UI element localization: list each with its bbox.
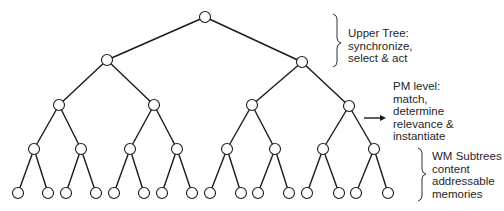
wm-subtrees-label: WM Subtrees content addressable memories [432, 150, 502, 200]
tree-node-level-3 [222, 144, 233, 155]
tree-node-level-3 [270, 144, 281, 155]
tree-node-level-2 [149, 100, 160, 111]
tree-edge [66, 149, 81, 193]
tree-node-level-4 [139, 188, 150, 199]
pm-level-arrow-icon [364, 115, 386, 121]
tree-edge [323, 106, 349, 149]
upper-tree-line-3: select & act [348, 52, 413, 65]
tree-edge [130, 149, 144, 193]
upper-tree-line-1: Upper Tree: [348, 27, 413, 40]
tree-root-node [200, 12, 211, 23]
tree-node-level-3 [369, 144, 380, 155]
upper-tree-label: Upper Tree: synchronize, select & act [348, 27, 413, 65]
tree-edge [130, 105, 154, 149]
wm-subtrees-line-4: memories [432, 188, 502, 201]
tree-edge [227, 105, 252, 149]
tree-edge [114, 149, 130, 193]
tree-node-level-1 [297, 57, 308, 68]
tree-edge [162, 149, 177, 193]
tree-edges [18, 17, 388, 193]
tree-edge [205, 17, 302, 62]
tree-node-level-3 [172, 144, 183, 155]
wm-subtrees-line-1: WM Subtrees [432, 150, 502, 163]
tree-edge [356, 149, 374, 193]
tree-node-level-4 [253, 188, 264, 199]
tree-node-level-4 [236, 188, 247, 199]
tree-node-level-3 [318, 144, 329, 155]
tree-edge [107, 60, 154, 105]
tree-edge [307, 149, 323, 193]
tree-edge [210, 149, 227, 193]
pm-level-line-1: PM level: [393, 80, 454, 93]
tree-node-level-4 [302, 188, 313, 199]
tree-edge [18, 149, 34, 193]
tree-edge [34, 105, 59, 149]
pm-level-line-2: match, [393, 93, 454, 106]
tree-edge [323, 149, 339, 193]
tree-edge [154, 105, 177, 149]
tree-node-level-4 [334, 188, 345, 199]
tree-node-level-4 [157, 188, 168, 199]
tree-edge [107, 17, 205, 60]
tree-edge [302, 62, 349, 106]
tree-edge [374, 149, 388, 193]
wm-subtrees-brace [418, 148, 426, 201]
tree-edge [349, 106, 374, 149]
wm-subtrees-line-2: content [432, 163, 502, 176]
tree-node-level-2 [247, 100, 258, 111]
tree-node-level-4 [109, 188, 120, 199]
tree-node-level-4 [61, 188, 72, 199]
tree-node-level-4 [91, 188, 102, 199]
tree-node-level-4 [351, 188, 362, 199]
upper-tree-line-2: synchronize, [348, 40, 413, 53]
tree-node-level-1 [102, 55, 113, 66]
tree-nodes [13, 12, 394, 199]
tree-node-level-4 [13, 188, 24, 199]
tree-node-level-4 [205, 188, 216, 199]
tree-edge [275, 149, 289, 193]
upper-tree-brace [333, 14, 341, 67]
wm-subtrees-line-3: addressable [432, 175, 502, 188]
pm-level-line-4: relevance & [393, 118, 454, 131]
tree-edge [177, 149, 192, 193]
tree-edge [258, 149, 275, 193]
pm-level-line-5: instantiate [393, 130, 454, 143]
tree-node-level-4 [43, 188, 54, 199]
tree-node-level-3 [76, 144, 87, 155]
tree-edge [34, 149, 48, 193]
tree-node-level-4 [383, 188, 394, 199]
tree-node-level-2 [54, 100, 65, 111]
tree-node-level-3 [125, 144, 136, 155]
tree-node-level-4 [284, 188, 295, 199]
tree-edge [81, 149, 96, 193]
pm-level-label: PM level: match, determine relevance & i… [393, 80, 454, 143]
tree-node-level-2 [344, 101, 355, 112]
tree-edge [252, 62, 302, 105]
tree-edge [59, 105, 81, 149]
tree-node-level-4 [187, 188, 198, 199]
tree-edge [252, 105, 275, 149]
tree-edge [227, 149, 241, 193]
tree-node-level-3 [29, 144, 40, 155]
pm-level-line-3: determine [393, 105, 454, 118]
tree-edge [59, 60, 107, 105]
